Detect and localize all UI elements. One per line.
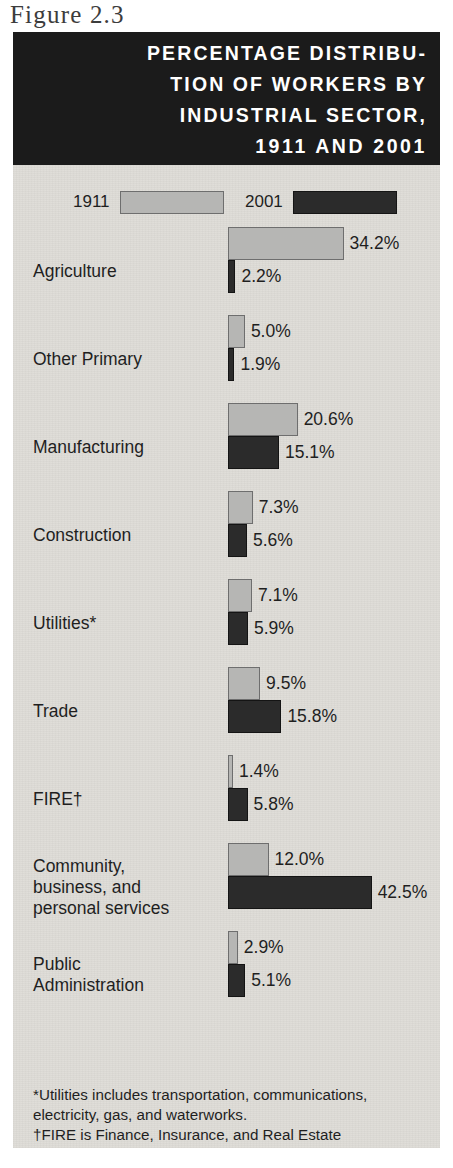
category-label: Community, business, and personal servic… (33, 856, 169, 919)
footnote-fire: †FIRE is Finance, Insurance, and Real Es… (33, 1125, 433, 1145)
bar-row: Manufacturing20.6%15.1% (13, 403, 440, 491)
bar-line-1911: 34.2% (228, 227, 399, 260)
bar-value-label: 42.5% (378, 882, 428, 903)
bar-pair: 2.9%5.1% (228, 931, 291, 997)
bar-value-label: 1.4% (239, 761, 279, 782)
legend-item-1911: 1911 (73, 187, 224, 217)
legend-swatch-1911 (120, 191, 224, 214)
bar-pair: 20.6%15.1% (228, 403, 353, 469)
bar-2001 (228, 524, 247, 557)
bar-pair: 5.0%1.9% (228, 315, 291, 381)
category-label: FIRE† (33, 789, 83, 810)
bar-value-label: 7.1% (258, 585, 298, 606)
legend-item-2001: 2001 (245, 187, 397, 217)
bar-line-1911: 5.0% (228, 315, 291, 348)
bar-line-2001: 5.1% (228, 964, 291, 997)
category-label: Agriculture (33, 261, 117, 282)
bar-pair: 12.0%42.5% (228, 843, 427, 909)
bar-row: Utilities*7.1%5.9% (13, 579, 440, 667)
bar-line-1911: 7.1% (228, 579, 298, 612)
bar-2001 (228, 260, 235, 293)
bar-row: Construction7.3%5.6% (13, 491, 440, 579)
bar-line-1911: 2.9% (228, 931, 291, 964)
bar-value-label: 5.1% (251, 970, 291, 991)
bar-2001 (228, 964, 245, 997)
bar-value-label: 7.3% (259, 497, 299, 518)
bar-1911 (228, 491, 253, 524)
bar-row: FIRE†1.4%5.8% (13, 755, 440, 843)
bar-row: Community, business, and personal servic… (13, 843, 440, 931)
legend-label-2001: 2001 (245, 192, 283, 212)
category-label: Manufacturing (33, 437, 144, 458)
bar-2001 (228, 876, 372, 909)
bar-line-2001: 15.1% (228, 436, 353, 469)
chart-body: 1911 2001 Agriculture34.2%2.2%Other Prim… (13, 165, 440, 1148)
bar-value-label: 15.8% (287, 706, 337, 727)
bar-pair: 7.3%5.6% (228, 491, 299, 557)
bar-value-label: 5.0% (251, 321, 291, 342)
bar-line-1911: 7.3% (228, 491, 299, 524)
bar-line-1911: 9.5% (228, 667, 337, 700)
bar-value-label: 9.5% (266, 673, 306, 694)
bar-value-label: 12.0% (275, 849, 325, 870)
bar-1911 (228, 315, 245, 348)
bar-pair: 7.1%5.9% (228, 579, 298, 645)
title-line-1: PERCENTAGE DISTRIBU- (13, 38, 427, 69)
bar-line-1911: 20.6% (228, 403, 353, 436)
bar-value-label: 2.2% (241, 266, 281, 287)
category-label: Utilities* (33, 613, 96, 634)
bar-line-1911: 1.4% (228, 755, 293, 788)
bar-value-label: 5.8% (254, 794, 294, 815)
bar-value-label: 2.9% (244, 937, 284, 958)
bar-line-2001: 5.6% (228, 524, 299, 557)
bar-pair: 9.5%15.8% (228, 667, 337, 733)
bar-1911 (228, 931, 238, 964)
bar-value-label: 34.2% (350, 233, 400, 254)
chart-footnotes: *Utilities includes transportation, comm… (33, 1085, 433, 1145)
bar-row: Trade9.5%15.8% (13, 667, 440, 755)
footnote-utilities: *Utilities includes transportation, comm… (33, 1085, 433, 1125)
bar-value-label: 5.6% (253, 530, 293, 551)
bar-2001 (228, 788, 248, 821)
title-line-3: INDUSTRIAL SECTOR, (13, 100, 427, 131)
bar-value-label: 1.9% (240, 354, 280, 375)
bar-line-2001: 1.9% (228, 348, 291, 381)
bar-1911 (228, 843, 269, 876)
bar-1911 (228, 403, 298, 436)
bar-pair: 34.2%2.2% (228, 227, 399, 293)
bar-line-2001: 5.8% (228, 788, 293, 821)
bar-row: Other Primary5.0%1.9% (13, 315, 440, 403)
chart-legend: 1911 2001 (13, 187, 440, 219)
bar-value-label: 15.1% (285, 442, 335, 463)
bar-line-2001: 2.2% (228, 260, 399, 293)
legend-swatch-2001 (293, 191, 397, 214)
title-line-2: TION OF WORKERS BY (13, 69, 427, 100)
bar-1911 (228, 579, 252, 612)
figure-number-label: Figure 2.3 (10, 1, 125, 29)
title-line-4: 1911 AND 2001 (13, 131, 427, 162)
category-label: Public Administration (33, 954, 144, 996)
bar-line-2001: 15.8% (228, 700, 337, 733)
bar-row: Agriculture34.2%2.2% (13, 227, 440, 315)
category-label: Construction (33, 525, 131, 546)
bar-2001 (228, 700, 281, 733)
bar-1911 (228, 667, 260, 700)
bar-value-label: 5.9% (254, 618, 294, 639)
bar-rows-container: Agriculture34.2%2.2%Other Primary5.0%1.9… (13, 227, 440, 1019)
bar-line-2001: 5.9% (228, 612, 298, 645)
chart-title-banner: PERCENTAGE DISTRIBU- TION OF WORKERS BY … (13, 32, 440, 165)
bar-2001 (228, 348, 234, 381)
bar-line-2001: 42.5% (228, 876, 427, 909)
bar-row: Public Administration2.9%5.1% (13, 931, 440, 1019)
bar-2001 (228, 436, 279, 469)
category-label: Trade (33, 701, 78, 722)
bar-1911 (228, 227, 344, 260)
bar-line-1911: 12.0% (228, 843, 427, 876)
bar-pair: 1.4%5.8% (228, 755, 293, 821)
bar-2001 (228, 612, 248, 645)
category-label: Other Primary (33, 349, 142, 370)
legend-label-1911: 1911 (73, 192, 110, 212)
bar-value-label: 20.6% (304, 409, 354, 430)
bar-1911 (228, 755, 233, 788)
